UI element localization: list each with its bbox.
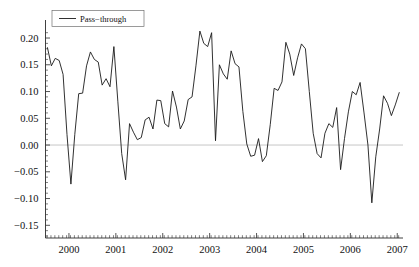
x-tick-label: 2004: [246, 244, 268, 255]
x-tick-label: 2001: [105, 244, 126, 255]
x-axis-ticks: [47, 233, 399, 238]
y-tick-label: −0.05: [14, 166, 38, 177]
x-tick-label: 2005: [293, 244, 314, 255]
y-tick-label: 0.00: [20, 140, 38, 151]
x-tick-label: 2000: [58, 244, 79, 255]
y-tick-label: 0.15: [20, 59, 38, 70]
x-axis-tick-labels: 20002001200220032004200520062007: [58, 244, 407, 255]
x-tick-label: 2002: [152, 244, 173, 255]
x-tick-label: 2006: [340, 244, 361, 255]
y-axis-ticks: [46, 33, 51, 236]
y-tick-label: −0.15: [14, 220, 38, 231]
x-tick-label: 2003: [199, 244, 220, 255]
legend-entry-label: Pass−through: [80, 14, 127, 24]
x-tick-label: 2007: [387, 244, 408, 255]
chart-figure: 0.200.150.100.050.00−0.05−0.10−0.15 2000…: [0, 0, 419, 267]
y-tick-label: 0.20: [20, 33, 38, 44]
y-tick-label: 0.05: [20, 113, 38, 124]
axis-lines: [46, 20, 404, 238]
y-tick-label: 0.10: [20, 86, 38, 97]
series-line: [47, 31, 399, 203]
y-tick-label: −0.10: [14, 193, 38, 204]
data-series-group: [47, 31, 399, 203]
line-chart: 0.200.150.100.050.00−0.05−0.10−0.15 2000…: [0, 0, 419, 267]
chart-legend: Pass−through: [52, 11, 144, 27]
y-axis-tick-labels: 0.200.150.100.050.00−0.05−0.10−0.15: [14, 33, 38, 231]
